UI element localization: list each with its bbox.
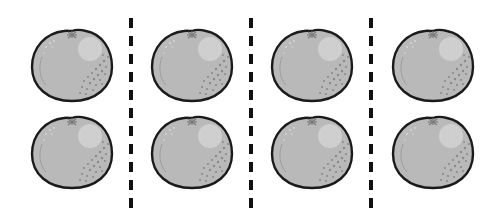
- orange-icon: [30, 114, 114, 190]
- oranges-grid: [0, 0, 500, 221]
- dashed-divider-3: [369, 18, 373, 216]
- orange-icon: [150, 27, 234, 103]
- orange-icon: [270, 27, 354, 103]
- dashed-divider-1: [129, 18, 133, 216]
- dashed-divider-2: [249, 18, 253, 216]
- orange-icon: [150, 114, 234, 190]
- orange-icon: [391, 114, 475, 190]
- orange-icon: [270, 114, 354, 190]
- orange-icon: [30, 27, 114, 103]
- orange-icon: [391, 27, 475, 103]
